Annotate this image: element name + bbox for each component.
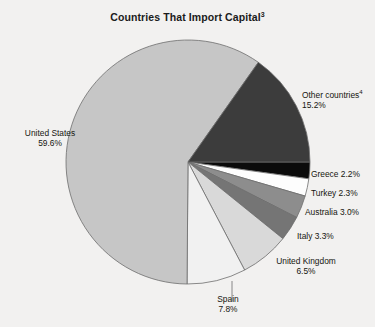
pie-label-other-countries-footnote-marker: 4	[359, 89, 362, 95]
pie-label-united-kingdom-name: United Kingdom	[263, 256, 349, 266]
pie-label-australia: Australia 3.0%	[305, 207, 359, 217]
pie-slices-group	[66, 40, 310, 284]
pie-label-australia-text: Australia 3.0%	[305, 207, 359, 217]
pie-label-italy: Italy 3.3%	[297, 231, 334, 241]
pie-label-other-countries-value: 15.2%	[302, 100, 374, 110]
pie-graphic	[0, 0, 375, 327]
pie-label-other-countries: Other countries4 15.2%	[302, 90, 374, 111]
pie-label-italy-text: Italy 3.3%	[297, 231, 334, 241]
pie-label-united-states-name: United States	[12, 128, 88, 138]
pie-label-spain-value: 7.8%	[198, 304, 258, 314]
pie-label-other-countries-text: Other countries	[302, 90, 359, 100]
pie-label-spain-name: Spain	[198, 294, 258, 304]
pie-label-united-kingdom-value: 6.5%	[263, 266, 349, 276]
pie-label-united-states: United States 59.6%	[12, 128, 88, 149]
pie-label-other-countries-name: Other countries4	[302, 90, 374, 100]
pie-label-united-states-value: 59.6%	[12, 138, 88, 148]
pie-label-greece: Greece 2.2%	[311, 169, 360, 179]
pie-label-spain: Spain 7.8%	[198, 294, 258, 315]
pie-label-united-kingdom: United Kingdom 6.5%	[263, 256, 349, 277]
pie-label-turkey-text: Turkey 2.3%	[311, 188, 358, 198]
pie-label-turkey: Turkey 2.3%	[311, 188, 358, 198]
pie-label-greece-text: Greece 2.2%	[311, 169, 360, 179]
pie-chart-figure: Countries That Import Capital3 United St…	[0, 0, 375, 327]
